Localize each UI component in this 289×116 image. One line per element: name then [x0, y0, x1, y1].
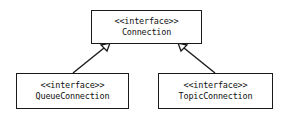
- generalization-edge-topic: [184, 48, 215, 73]
- queue-connection-interface-box: <<interface>> QueueConnection: [16, 73, 129, 109]
- stereotype-label: <<interface>>: [115, 16, 179, 27]
- topic-connection-interface-box: <<interface>> TopicConnection: [158, 73, 273, 109]
- generalization-edge-queue: [73, 48, 104, 73]
- stereotype-label: <<interface>>: [184, 80, 248, 91]
- stereotype-label: <<interface>>: [41, 80, 105, 91]
- connection-interface-box: <<interface>> Connection: [91, 10, 202, 44]
- interface-name: QueueConnection: [36, 91, 110, 102]
- interface-name: TopicConnection: [179, 91, 253, 102]
- interface-name: Connection: [122, 27, 171, 38]
